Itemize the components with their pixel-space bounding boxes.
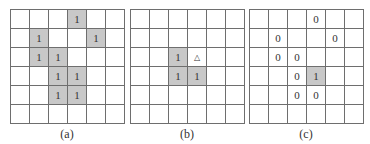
grid-cell <box>131 29 150 48</box>
grid-cell <box>150 86 169 105</box>
grid-cell <box>345 29 364 48</box>
grid-cell <box>131 86 150 105</box>
grid-cell: 1 <box>30 29 49 48</box>
grid-a: 111111111 <box>10 9 125 124</box>
grid-cell <box>30 10 49 29</box>
grid-cell <box>269 105 288 124</box>
grid-cell <box>269 10 288 29</box>
grid-cell <box>150 48 169 67</box>
grid-cell <box>131 67 150 86</box>
grid-cell: 1 <box>49 48 68 67</box>
grid-cell <box>11 105 30 124</box>
grid-cell <box>169 10 188 29</box>
grid-cell <box>11 48 30 67</box>
grid-cell <box>87 10 106 29</box>
grid-cell: 0 <box>288 67 307 86</box>
grid-cell <box>345 48 364 67</box>
panel-c: 000000100 <box>249 9 364 124</box>
grid-cell <box>307 48 326 67</box>
grid-cell <box>307 105 326 124</box>
grid-cell <box>345 105 364 124</box>
grid-cell <box>106 67 125 86</box>
grid-cell <box>106 86 125 105</box>
panel-a: 111111111 <box>10 9 125 124</box>
grid-cell: 1 <box>68 10 87 29</box>
grid-cell <box>207 105 226 124</box>
grid-cell <box>106 105 125 124</box>
panel-b-label: (b) <box>157 127 217 142</box>
grid-cell <box>288 29 307 48</box>
grid-cell <box>288 10 307 29</box>
grid-cell: 1 <box>307 67 326 86</box>
grid-cell <box>345 86 364 105</box>
grid-cell <box>326 67 345 86</box>
grid-cell <box>169 86 188 105</box>
grid-cell <box>188 86 207 105</box>
grid-cell <box>250 86 269 105</box>
grid-cell <box>11 29 30 48</box>
grid-cell: 0 <box>307 10 326 29</box>
grid-cell <box>131 48 150 67</box>
panel-a-label: (a) <box>37 127 97 142</box>
grid-cell <box>11 86 30 105</box>
grid-b: 1△11 <box>130 9 245 124</box>
grid-cell <box>307 29 326 48</box>
grid-cell <box>49 105 68 124</box>
grid-cell <box>188 29 207 48</box>
grid-cell <box>250 67 269 86</box>
grid-cell: 0 <box>288 48 307 67</box>
grid-cell <box>30 67 49 86</box>
grid-cell <box>131 10 150 29</box>
grid-cell <box>188 10 207 29</box>
grid-c: 000000100 <box>249 9 364 124</box>
grid-cell <box>269 86 288 105</box>
grid-cell <box>250 48 269 67</box>
grid-cell <box>169 105 188 124</box>
grid-cell <box>326 10 345 29</box>
grid-cell <box>87 48 106 67</box>
grid-cell <box>226 67 245 86</box>
grid-cell <box>150 67 169 86</box>
grid-cell <box>345 10 364 29</box>
grid-cell <box>207 86 226 105</box>
grid-cell: 1 <box>169 67 188 86</box>
grid-cell <box>150 105 169 124</box>
grid-cell <box>188 105 207 124</box>
grid-cell <box>169 29 188 48</box>
grid-cell: 1 <box>169 48 188 67</box>
grid-cell <box>207 67 226 86</box>
grid-cell <box>87 86 106 105</box>
grid-cell <box>226 48 245 67</box>
grid-cell: 1 <box>68 67 87 86</box>
grid-cell <box>11 67 30 86</box>
grid-cell <box>288 105 307 124</box>
grid-cell <box>226 105 245 124</box>
grid-cell: 1 <box>87 29 106 48</box>
grid-cell <box>106 29 125 48</box>
grid-cell <box>326 48 345 67</box>
grid-cell <box>207 48 226 67</box>
grid-cell <box>106 48 125 67</box>
grid-cell <box>68 105 87 124</box>
grid-cell <box>150 10 169 29</box>
grid-cell <box>11 10 30 29</box>
panel-b: 1△11 <box>130 9 245 124</box>
grid-cell: 0 <box>326 29 345 48</box>
grid-cell <box>326 86 345 105</box>
grid-cell <box>226 29 245 48</box>
grid-cell <box>269 67 288 86</box>
grid-cell <box>345 67 364 86</box>
grid-cell <box>87 67 106 86</box>
grid-cell <box>207 10 226 29</box>
grid-cell <box>68 29 87 48</box>
grid-cell: 0 <box>307 86 326 105</box>
grid-cell: 1 <box>68 86 87 105</box>
grid-cell <box>131 105 150 124</box>
grid-cell <box>30 105 49 124</box>
grid-cell <box>49 10 68 29</box>
grid-cell <box>326 105 345 124</box>
grid-cell <box>150 29 169 48</box>
grid-cell <box>250 29 269 48</box>
grid-cell: 1 <box>49 86 68 105</box>
grid-cell <box>250 105 269 124</box>
